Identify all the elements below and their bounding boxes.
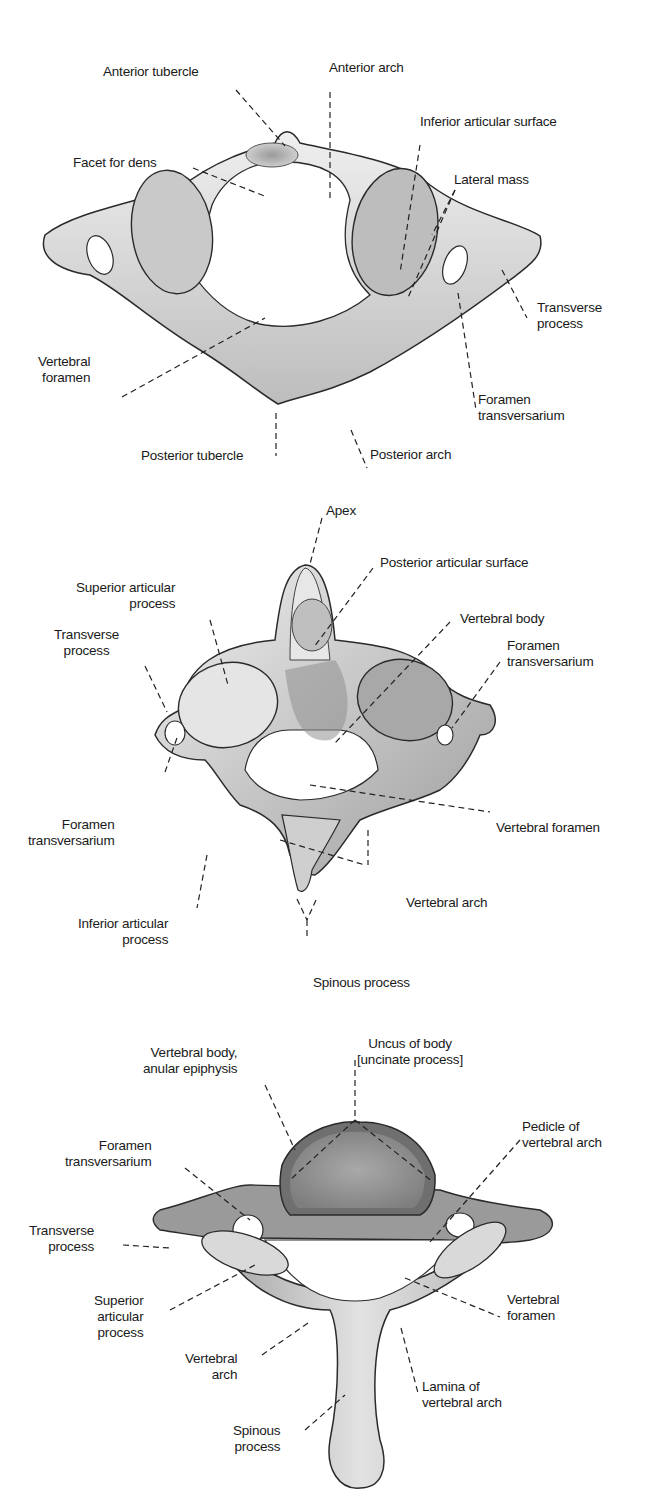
label-foramen-transversarium-left: Foramen transversarium (28, 817, 114, 849)
atlas-figure: Anterior tubercle Anterior arch Inferior… (0, 0, 670, 470)
label-pedicle-of-vertebral-arch: Pedicle of vertebral arch (522, 1119, 602, 1151)
label-anterior-tubercle: Anterior tubercle (103, 64, 199, 80)
typical-cervical-illustration (0, 1010, 670, 1508)
label-posterior-arch: Posterior arch (370, 447, 451, 463)
label-spinous-process: Spinous process (233, 1423, 280, 1455)
label-vertebral-body: Vertebral body (460, 611, 544, 627)
label-transverse-process: Transverse process (537, 300, 602, 332)
label-spinous-process: Spinous process (313, 975, 410, 991)
typical-cervical-figure: Vertebral body, anular epiphysis Uncus o… (0, 1010, 670, 1508)
label-superior-articular-process: Superior articular process (76, 580, 175, 612)
label-vertebral-arch: Vertebral arch (185, 1351, 237, 1383)
label-lamina-of-vertebral-arch: Lamina of vertebral arch (422, 1379, 502, 1411)
label-inferior-articular-surface: Inferior articular surface (420, 114, 557, 130)
label-transverse-process: Transverse process (29, 1223, 94, 1255)
label-lateral-mass: Lateral mass (454, 172, 529, 188)
label-foramen-transversarium: Foramen transversarium (478, 392, 564, 424)
label-foramen-transversarium-right: Foramen transversarium (507, 638, 593, 670)
label-superior-articular-process: Superior articular process (94, 1293, 143, 1341)
label-facet-for-dens: Facet for dens (73, 155, 157, 171)
label-foramen-transversarium: Foramen transversarium (65, 1138, 151, 1170)
label-transverse-process: Transverse process (54, 627, 119, 659)
axis-figure: Apex Posterior articular surface Superio… (0, 470, 670, 1010)
label-vertebral-arch: Vertebral arch (406, 895, 487, 911)
label-vertebral-foramen: Vertebral foramen (38, 354, 90, 386)
label-posterior-articular-surface: Posterior articular surface (380, 555, 528, 571)
label-apex: Apex (326, 503, 356, 519)
label-uncus-of-body: Uncus of body [uncinate process] (357, 1036, 463, 1068)
label-vertebral-foramen: Vertebral foramen (507, 1292, 559, 1324)
label-vertebral-foramen: Vertebral foramen (496, 820, 600, 836)
label-vertebral-body-anular-epiphysis: Vertebral body, anular epiphysis (143, 1045, 237, 1077)
label-inferior-articular-process: Inferior articular process (78, 916, 168, 948)
label-posterior-tubercle: Posterior tubercle (141, 448, 243, 464)
label-anterior-arch: Anterior arch (329, 60, 404, 76)
